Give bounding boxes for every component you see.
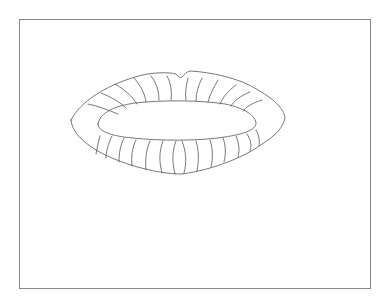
mouth-opening <box>98 101 256 140</box>
lips-drawing <box>0 0 390 307</box>
lips-outer-contour <box>71 71 285 174</box>
